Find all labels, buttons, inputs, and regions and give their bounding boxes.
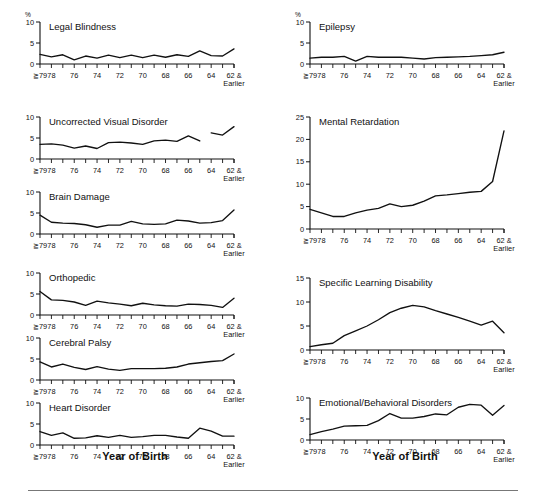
y-tick-label: 10 [296, 18, 304, 27]
chart-svg: 0510152025≧79787674727068666462 &Earlier… [270, 103, 540, 255]
x-tick-label: 64 [207, 71, 215, 80]
plot-title: Specific Learning Disability [319, 277, 433, 288]
chart-svg: 0510≧79787674727068666462 &EarlierHeart … [0, 389, 270, 451]
x-axis-caption-right: Year of Birth [270, 450, 540, 462]
x-tick-label: 76 [340, 357, 348, 366]
data-line [40, 49, 234, 60]
x-tick-label: 66 [184, 166, 192, 175]
data-line [211, 127, 234, 135]
x-tick-label: 70 [139, 71, 147, 80]
data-line [310, 131, 504, 217]
x-tick-label-earlier: Earlier [223, 249, 245, 258]
x-tick-label: 72 [116, 241, 124, 250]
y-tick-label: 5 [300, 322, 304, 331]
x-tick-label: ≧79 [303, 71, 317, 80]
y-tick-label: 0 [300, 346, 304, 355]
y-tick-label: 5 [300, 202, 304, 211]
data-line [310, 404, 504, 434]
x-tick-label: 64 [207, 241, 215, 250]
data-line [40, 136, 200, 149]
x-tick-label: ≧79 [303, 236, 317, 245]
panel-epilepsy: %0510≧79787674727068666462 &EarlierEpile… [270, 8, 540, 96]
data-line [40, 354, 234, 370]
chart-svg: 0510≧79787674727068666462 &EarlierEmotio… [270, 384, 540, 446]
right-column: %0510≧79787674727068666462 &EarlierEpile… [270, 0, 540, 470]
x-tick-label: 78 [317, 71, 325, 80]
y-tick-label: 0 [300, 60, 304, 69]
chart-svg: 0510≧79787674727068666462 &EarlierCerebr… [0, 324, 270, 386]
panel-mental-retardation: 0510152025≧79787674727068666462 &Earlier… [270, 103, 540, 255]
chart-svg: 051015≧79787674727068666462 &EarlierSpec… [270, 264, 540, 376]
x-tick-label: 76 [70, 71, 78, 80]
x-tick-label-earlier: Earlier [493, 79, 515, 88]
x-axis-caption-left: Year of Birth [0, 450, 270, 462]
panel-cerebral-palsy: 0510≧79787674727068666462 &EarlierCerebr… [0, 324, 270, 386]
y-tick-label: 5 [30, 420, 34, 429]
x-tick-label-earlier: Earlier [493, 365, 515, 374]
data-line [40, 291, 234, 307]
x-tick-label: 68 [161, 166, 169, 175]
left-column: %0510≧79787674727068666462 &EarlierLegal… [0, 0, 270, 470]
x-tick-label: 78 [47, 166, 55, 175]
x-tick-label: 72 [386, 236, 394, 245]
x-tick-label: 74 [93, 71, 101, 80]
x-tick-label: 64 [477, 236, 485, 245]
x-tick-label: 66 [184, 71, 192, 80]
x-tick-label: ≧79 [33, 71, 47, 80]
y-tick-label: 5 [30, 209, 34, 218]
x-tick-label: 76 [70, 241, 78, 250]
plot-title: Mental Retardation [319, 116, 399, 127]
x-tick-label: 74 [363, 236, 371, 245]
x-tick-label: 70 [139, 241, 147, 250]
x-tick-label: 78 [317, 357, 325, 366]
data-line [310, 305, 504, 346]
y-tick-label: 10 [26, 18, 34, 27]
x-tick-label: 68 [161, 71, 169, 80]
x-tick-label: 68 [431, 71, 439, 80]
x-tick-label-earlier: Earlier [493, 244, 515, 253]
y-tick-label: 0 [30, 155, 34, 164]
data-line [40, 428, 234, 438]
y-tick-label: 0 [30, 230, 34, 239]
panel-legal-blindness: %0510≧79787674727068666462 &EarlierLegal… [0, 8, 270, 96]
x-tick-label: 70 [409, 236, 417, 245]
x-tick-label: 74 [93, 166, 101, 175]
y-tick-label: 10 [26, 334, 34, 343]
plot-title: Emotional/Behavioral Disorders [319, 397, 452, 408]
plot-title: Brain Damage [49, 191, 110, 202]
y-tick-label: 10 [26, 188, 34, 197]
plot-title: Legal Blindness [49, 21, 116, 32]
x-tick-label: 72 [116, 166, 124, 175]
panel-orthopedic: 0510≧79787674727068666462 &EarlierOrthop… [0, 259, 270, 321]
x-tick-label: 74 [363, 71, 371, 80]
chart-svg: %0510≧79787674727068666462 &EarlierLegal… [0, 8, 270, 96]
plot-title: Uncorrected Visual Disorder [49, 116, 168, 127]
y-tick-label: 10 [296, 180, 304, 189]
y-tick-label: 0 [300, 225, 304, 234]
x-tick-label: 68 [161, 241, 169, 250]
x-tick-label: 66 [184, 241, 192, 250]
y-tick-label: 10 [296, 298, 304, 307]
x-tick-label: 72 [386, 71, 394, 80]
panel-heart-disorder: 0510≧79787674727068666462 &EarlierHeart … [0, 389, 270, 451]
x-tick-label: 76 [70, 166, 78, 175]
y-tick-label: 5 [300, 415, 304, 424]
y-tick-label: 15 [296, 274, 304, 283]
x-tick-label: 66 [454, 357, 462, 366]
data-line [40, 210, 234, 227]
chart-svg: 0510≧79787674727068666462 &EarlierOrthop… [0, 259, 270, 321]
x-tick-label: 78 [47, 71, 55, 80]
x-tick-label: 64 [477, 71, 485, 80]
chart-svg: 0510≧79787674727068666462 &EarlierUncorr… [0, 103, 270, 173]
x-tick-label: 76 [340, 71, 348, 80]
panel-specific-learning-disability: 051015≧79787674727068666462 &EarlierSpec… [270, 264, 540, 376]
y-tick-label: 25 [296, 113, 304, 122]
x-tick-label-earlier: Earlier [223, 79, 245, 88]
x-tick-label: 72 [386, 357, 394, 366]
x-tick-label: ≧79 [33, 166, 47, 175]
plot-title: Orthopedic [49, 272, 96, 283]
x-tick-label: 68 [431, 236, 439, 245]
x-tick-label: ≧79 [303, 357, 317, 366]
y-tick-label: 15 [296, 157, 304, 166]
footer-divider-rule [28, 490, 518, 491]
